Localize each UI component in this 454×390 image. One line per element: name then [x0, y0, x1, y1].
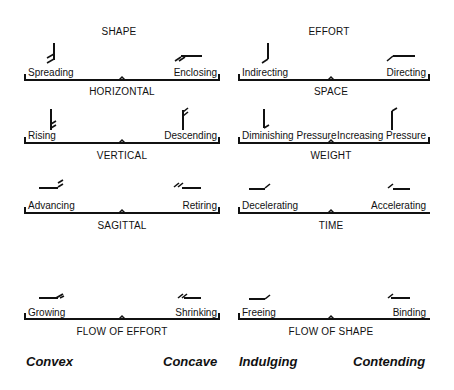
indulging-label: Indulging: [239, 354, 297, 369]
accelerating-label: Accelerating: [371, 200, 426, 211]
shrinking-glyph-icon: [176, 292, 202, 302]
center-caret-icon: [326, 75, 336, 81]
directing-label: Directing: [387, 67, 426, 78]
increasing-pressure-label: Increasing Pressure: [337, 130, 426, 141]
spreading-label: Spreading: [28, 67, 74, 78]
contending-label: Contending: [353, 354, 425, 369]
horizontal-axis-name: HORIZONTAL: [52, 86, 192, 97]
descending-glyph-icon: [178, 107, 192, 131]
indirecting-label: Indirecting: [242, 67, 288, 78]
flow-of-effort-axis-name: FLOW OF EFFORT: [52, 326, 192, 337]
indirecting-glyph-icon: [258, 42, 272, 66]
vertical-axis-name: VERTICAL: [52, 150, 192, 161]
center-caret-icon: [117, 138, 127, 144]
freeing-glyph-icon: [248, 292, 272, 302]
rising-label: Rising: [28, 130, 56, 141]
rising-glyph-icon: [46, 108, 60, 132]
weight-axis-name: WEIGHT: [261, 150, 401, 161]
descending-label: Descending: [164, 130, 217, 141]
center-caret-icon: [326, 314, 336, 320]
diminishing-pressure-label: Diminishing Pressure: [242, 130, 336, 141]
concave-label: Concave: [163, 354, 217, 369]
retiring-glyph-icon: [172, 179, 202, 191]
shrinking-label: Shrinking: [175, 307, 217, 318]
binding-glyph-icon: [387, 292, 411, 302]
freeing-label: Freeing: [242, 307, 276, 318]
convex-label: Convex: [26, 354, 73, 369]
enclosing-label: Enclosing: [174, 67, 217, 78]
center-caret-icon: [326, 138, 336, 144]
retiring-label: Retiring: [183, 200, 217, 211]
effort-title: EFFORT: [269, 26, 389, 37]
center-caret-icon: [117, 75, 127, 81]
advancing-glyph-icon: [38, 177, 66, 191]
time-axis-name: TIME: [261, 220, 401, 231]
accelerating-glyph-icon: [387, 182, 411, 192]
decelerating-label: Decelerating: [242, 200, 298, 211]
growing-glyph-icon: [38, 292, 66, 302]
center-caret-icon: [326, 208, 336, 214]
shape-title: SHAPE: [59, 26, 179, 37]
center-caret-icon: [117, 314, 127, 320]
binding-label: Binding: [393, 307, 426, 318]
increasing-pressure-glyph-icon: [388, 107, 400, 131]
decelerating-glyph-icon: [248, 182, 272, 192]
sagittal-axis-name: SAGITTAL: [52, 220, 192, 231]
flow-of-shape-axis-name: FLOW OF SHAPE: [261, 326, 401, 337]
space-axis-name: SPACE: [261, 86, 401, 97]
growing-label: Growing: [28, 307, 65, 318]
directing-glyph-icon: [386, 53, 416, 63]
enclosing-glyph-icon: [173, 52, 203, 64]
diminishing-pressure-glyph-icon: [260, 108, 272, 130]
advancing-label: Advancing: [28, 200, 75, 211]
spreading-glyph-icon: [44, 42, 58, 66]
center-caret-icon: [117, 208, 127, 214]
